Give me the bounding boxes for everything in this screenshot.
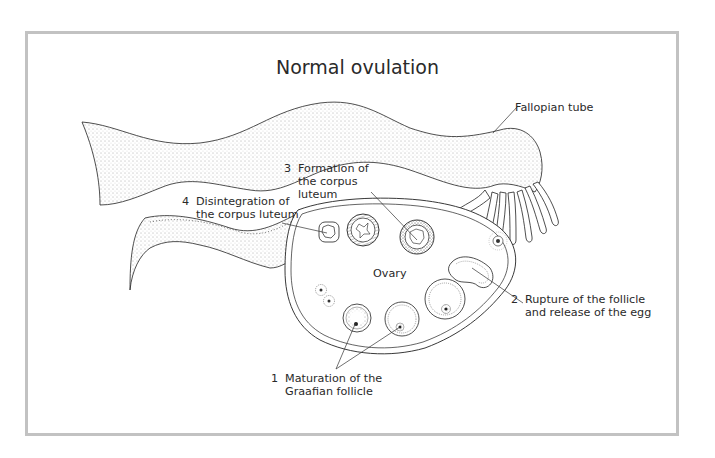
step-4-line2: the corpus luteum — [182, 208, 299, 221]
label-step-1: 1Maturation of the Graafian follicle — [271, 372, 382, 398]
step-3-line1: Formation of — [298, 162, 369, 175]
step-1-line2: Graafian follicle — [271, 385, 382, 398]
step-3-line2: the corpus — [284, 175, 369, 188]
step-2-line2: and release of the egg — [511, 306, 651, 319]
label-step-2: 2Rupture of the follicle and release of … — [511, 293, 651, 319]
label-ovary: Ovary — [373, 267, 407, 280]
step-3-number: 3 — [284, 162, 298, 175]
step-1-number: 1 — [271, 372, 285, 385]
step-2-line1: Rupture of the follicle — [525, 293, 645, 306]
step-2-number: 2 — [511, 293, 525, 306]
step-4-number: 4 — [182, 195, 196, 208]
step-4-line1: Disintegration of — [196, 195, 289, 208]
step-1-line1: Maturation of the — [285, 372, 382, 385]
label-step-4: 4Disintegration of the corpus luteum — [182, 195, 299, 221]
label-fallopian-tube: Fallopian tube — [515, 101, 594, 114]
